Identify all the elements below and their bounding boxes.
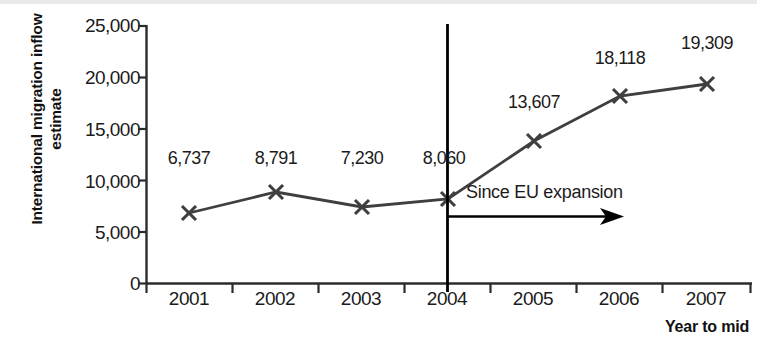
data-point-marker	[527, 134, 541, 148]
chart-container: International migration inflow estimate …	[0, 0, 757, 346]
x-axis-title: Year to mid	[665, 318, 749, 336]
data-point-label: 18,118	[574, 48, 666, 69]
data-point-label: 6,737	[143, 148, 235, 169]
x-tick-label: 2001	[146, 288, 232, 310]
x-tick-label: 2004	[404, 288, 490, 310]
x-tick-label: 2006	[576, 288, 662, 310]
data-point-label: 7,230	[316, 148, 408, 169]
x-tick-label: 2003	[318, 288, 404, 310]
data-point-label: 19,309	[661, 33, 753, 54]
x-tick-label: 2005	[490, 288, 576, 310]
x-tick-label: 2007	[663, 288, 749, 310]
eu-expansion-annotation-label: Since EU expansion	[466, 182, 623, 203]
data-point-label: 13,607	[488, 92, 580, 113]
x-tick-label: 2002	[232, 288, 318, 310]
data-point-label: 8,060	[398, 148, 490, 169]
eu-expansion-arrow	[448, 208, 624, 225]
data-point-label: 8,791	[230, 148, 322, 169]
